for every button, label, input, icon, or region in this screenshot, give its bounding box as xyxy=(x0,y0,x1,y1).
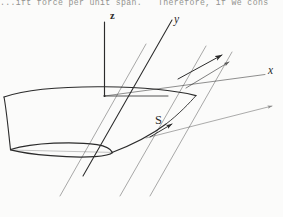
wing-coordinate-diagram xyxy=(0,0,283,217)
z-axis-label: z xyxy=(110,10,115,21)
wing-leading-edge xyxy=(4,87,196,97)
y-axis-line xyxy=(83,20,172,176)
chordwise-reference-line-right xyxy=(150,52,232,196)
wing-tip-rib-right xyxy=(166,96,196,124)
scanned-page: ...ift force per unit span. Therefore, i… xyxy=(0,0,283,217)
origin-point xyxy=(103,95,105,97)
area-label: S xyxy=(155,113,162,128)
area-leader-line xyxy=(146,106,272,138)
y-axis-label: y xyxy=(174,13,179,25)
span-direction-arrow xyxy=(178,55,222,79)
wing-trailing-edge xyxy=(112,124,166,153)
span-direction-arrow-second xyxy=(186,62,229,88)
wing-tip-rib-left xyxy=(4,97,11,150)
x-axis-label: x xyxy=(268,64,273,76)
